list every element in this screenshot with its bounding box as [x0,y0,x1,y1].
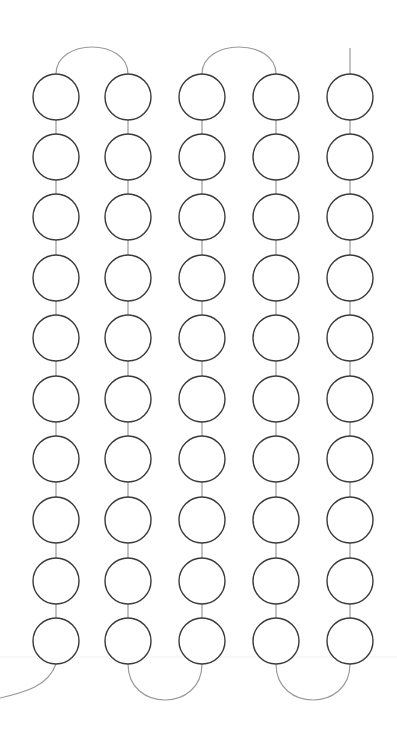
node-circle [253,315,299,361]
node-circle [179,315,225,361]
node-circle [179,436,225,482]
node-circle [327,134,373,180]
node-circle [105,74,151,120]
node-circle [105,194,151,240]
node-circle [105,376,151,422]
node-circle [105,618,151,664]
node-circle [327,74,373,120]
node-circle [33,436,79,482]
node-circle [327,618,373,664]
top-arc-connector [56,47,128,74]
node-circle [105,255,151,301]
node-circle [33,497,79,543]
node-circle [327,558,373,604]
node-circle [33,255,79,301]
node-circle [105,558,151,604]
node-circle [327,315,373,361]
node-circle [179,255,225,301]
node-circle [105,436,151,482]
node-circle [253,194,299,240]
node-circle [253,134,299,180]
node-circle [33,74,79,120]
node-circle [179,618,225,664]
node-circle [33,376,79,422]
diagram-canvas [0,0,397,730]
node-circle [33,194,79,240]
exit-tail [0,664,56,698]
node-circle [179,134,225,180]
top-arc-connector [202,47,276,74]
node-circle [327,255,373,301]
serpentine-diagram [0,0,397,730]
node-circle [33,558,79,604]
node-circle [179,497,225,543]
node-circle [105,134,151,180]
node-circle [253,497,299,543]
node-circle [33,134,79,180]
node-circle [253,436,299,482]
bottom-arc-connector [128,664,202,700]
node-circle [105,315,151,361]
node-circle [327,376,373,422]
node-circle [253,376,299,422]
node-circle [179,194,225,240]
node-circle [33,315,79,361]
node-circle [253,618,299,664]
node-circle [327,194,373,240]
node-circle [179,558,225,604]
node-circle [327,436,373,482]
node-circle [327,497,373,543]
bottom-arc-connector [276,664,350,700]
node-circle [253,74,299,120]
node-circle [253,558,299,604]
node-circle [179,74,225,120]
node-circle [105,497,151,543]
node-circle [253,255,299,301]
node-circle [33,618,79,664]
node-circle [179,376,225,422]
